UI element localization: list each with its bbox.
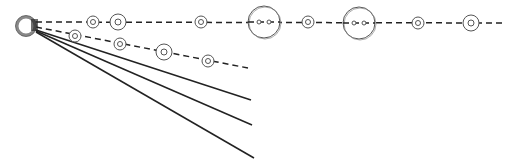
solid-line-3 bbox=[36, 32, 254, 158]
solid-line-2 bbox=[36, 31, 252, 125]
top-port-icon bbox=[352, 21, 356, 25]
lower-node-center-icon bbox=[118, 42, 123, 47]
top-port-icon bbox=[362, 21, 366, 25]
solid-line-1 bbox=[36, 30, 251, 100]
top-node-center-icon bbox=[91, 20, 96, 25]
dashed-line-lower bbox=[36, 27, 248, 68]
diagram-canvas bbox=[0, 0, 513, 167]
lower-node-center-icon bbox=[161, 49, 167, 55]
top-port-icon bbox=[267, 20, 271, 24]
top-port-icon bbox=[257, 20, 261, 24]
lower-node-center-icon bbox=[206, 59, 211, 64]
top-node-center-icon bbox=[115, 19, 121, 25]
lower-node-center-icon bbox=[73, 34, 78, 39]
top-node-center-icon bbox=[306, 20, 311, 25]
network-diagram bbox=[0, 0, 513, 167]
top-node-center-icon bbox=[416, 21, 421, 26]
top-node-center-icon bbox=[468, 20, 474, 26]
top-node-center-icon bbox=[199, 20, 204, 25]
